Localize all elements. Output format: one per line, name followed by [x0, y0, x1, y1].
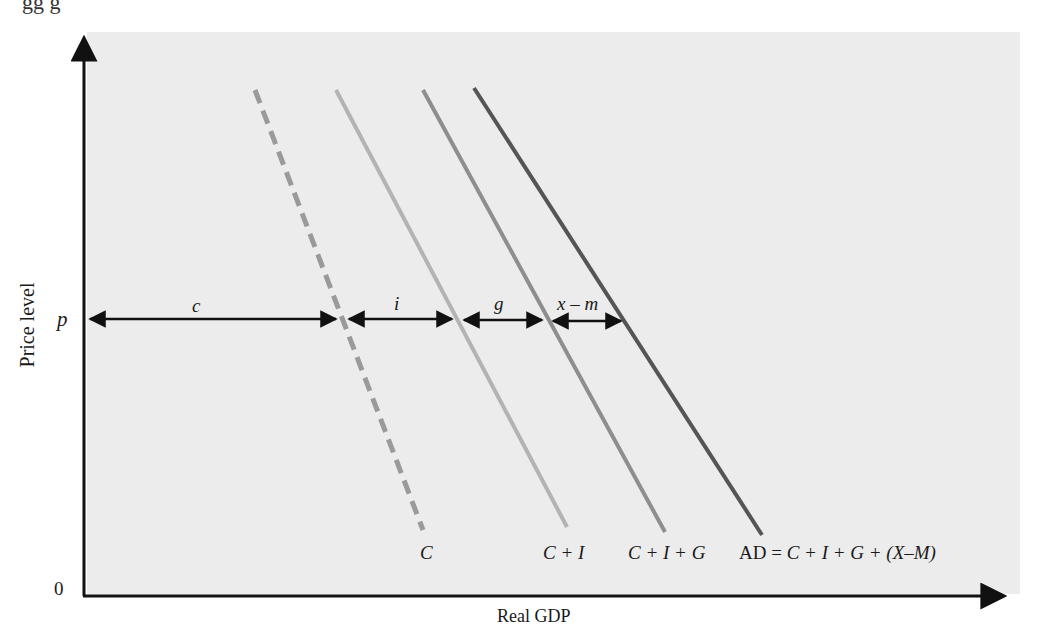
aggregate-demand-diagram: gg g Price level p 0 Real GDP c i g x – … — [0, 0, 1037, 644]
y-axis-label: Price level — [16, 283, 39, 368]
origin-label: 0 — [54, 578, 64, 600]
x-axis-label: Real GDP — [497, 606, 571, 627]
curve-label-c-plus-i-plus-g: C + I + G — [628, 542, 705, 564]
curve-label-ad: AD = C + I + G + (X–M) — [739, 542, 936, 564]
curve-label-ad-prefix: AD = — [739, 542, 787, 563]
component-label-x-minus-m: x – m — [557, 293, 598, 315]
curve-label-c: C — [420, 542, 433, 564]
component-label-g: g — [494, 293, 504, 315]
price-level-p-label: p — [57, 307, 68, 332]
component-label-c: c — [192, 295, 200, 317]
curve-label-c-plus-i: C + I — [543, 542, 584, 564]
component-label-i: i — [394, 293, 399, 315]
plot-panel — [87, 32, 1020, 594]
curve-label-ad-formula: C + I + G + (X–M) — [787, 542, 936, 563]
